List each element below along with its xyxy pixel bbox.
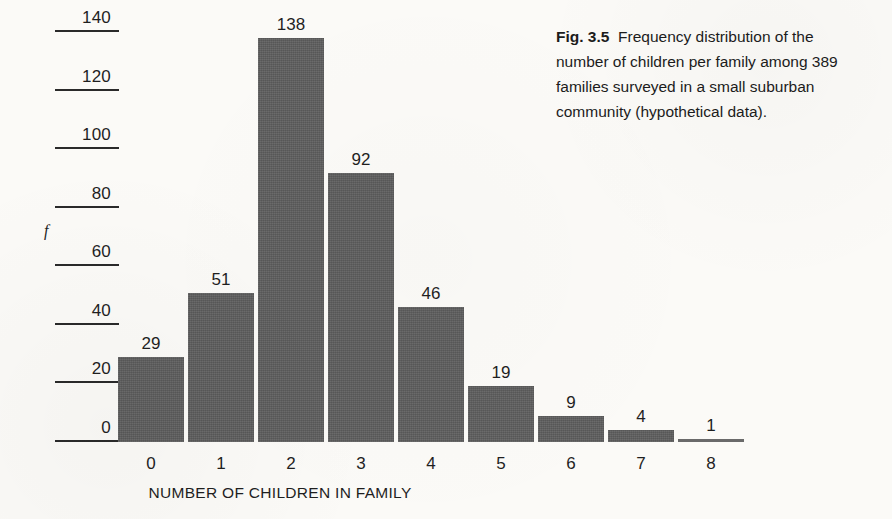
figure-label: Fig. 3.5 [556, 28, 609, 45]
y-axis-tick-label: 80 [92, 184, 111, 204]
bar [398, 307, 464, 442]
bar-value-label: 4 [608, 407, 674, 427]
y-axis-tick-line [55, 30, 119, 32]
bar [118, 357, 184, 442]
bar [608, 430, 674, 442]
bar [468, 386, 534, 442]
bar [678, 439, 744, 442]
x-axis-tick-label: 6 [538, 454, 604, 474]
y-axis-tick-label: 100 [82, 125, 111, 145]
y-axis-tick-label: 60 [92, 242, 111, 262]
y-axis-tick-line [55, 323, 119, 325]
bar-value-label: 29 [118, 334, 184, 354]
bar [538, 416, 604, 442]
y-axis-tick-line [55, 381, 119, 383]
bar-value-label: 138 [258, 15, 324, 35]
x-axis-tick-label: 0 [118, 454, 184, 474]
x-axis-tick-label: 5 [468, 454, 534, 474]
figure-caption-text [609, 28, 618, 45]
y-axis-tick-line [55, 206, 119, 208]
bar [258, 38, 324, 442]
x-axis-tick-label: 2 [258, 454, 324, 474]
x-axis-tick-label: 1 [188, 454, 254, 474]
y-axis-label: f [44, 222, 48, 240]
y-axis-tick-line [55, 440, 119, 442]
x-axis-tick-label: 4 [398, 454, 464, 474]
bar-value-label: 1 [678, 416, 744, 436]
y-axis-tick-line [55, 264, 119, 266]
x-axis-title: NUMBER OF CHILDREN IN FAMILY [0, 484, 560, 502]
x-axis-tick-label: 3 [328, 454, 394, 474]
bar [328, 173, 394, 442]
y-axis-tick-line [55, 147, 119, 149]
y-axis-tick-label: 120 [82, 67, 111, 87]
y-axis-tick-label: 40 [92, 301, 111, 321]
bar-value-label: 19 [468, 363, 534, 383]
y-axis-tick-label: 0 [101, 418, 111, 438]
bar-value-label: 92 [328, 150, 394, 170]
bar-chart: 140120100806040200 2951138924619941 0123… [0, 0, 560, 519]
x-axis-tick-label: 7 [608, 454, 674, 474]
y-axis-tick-label: 20 [92, 359, 111, 379]
x-axis-tick-label: 8 [678, 454, 744, 474]
bar-value-label: 46 [398, 284, 464, 304]
bar-value-label: 51 [188, 270, 254, 290]
figure-page: 140120100806040200 2951138924619941 0123… [0, 0, 892, 519]
y-axis-tick-line [55, 89, 119, 91]
y-axis-tick-label: 140 [82, 8, 111, 28]
figure-caption: Fig. 3.5 Frequency distribution of the n… [556, 24, 868, 124]
bar-value-label: 9 [538, 393, 604, 413]
bar [188, 293, 254, 442]
